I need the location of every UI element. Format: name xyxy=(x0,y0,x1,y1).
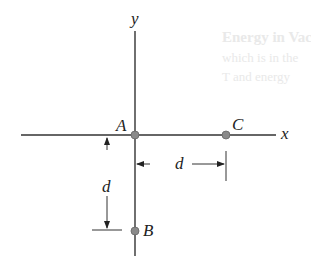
horizontal-distance-label: d xyxy=(175,155,184,172)
point-b xyxy=(131,227,139,235)
point-a xyxy=(131,131,139,139)
x-axis-label: x xyxy=(281,125,289,142)
point-b-label: B xyxy=(143,222,153,239)
point-a-label: A xyxy=(116,117,126,134)
vertical-distance-label: d xyxy=(102,178,111,195)
point-c-label: C xyxy=(232,116,243,133)
y-axis-label: y xyxy=(131,10,139,27)
point-c xyxy=(222,131,230,139)
coordinate-diagram xyxy=(0,0,311,269)
